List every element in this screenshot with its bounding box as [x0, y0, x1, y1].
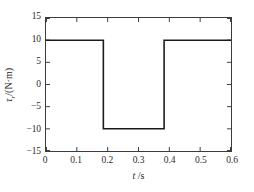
x-tick-label: 0.4	[164, 156, 176, 166]
x-tick-label: 0.6	[226, 156, 238, 166]
x-tick-label: 0.5	[195, 156, 207, 166]
x-tick-label: 0.2	[102, 156, 114, 166]
x-axis-tick-labels: 00.10.20.30.40.50.6	[45, 156, 232, 170]
y-axis-title-unit: /(N·m)	[3, 67, 14, 95]
y-axis-title-symbol: τ	[3, 98, 14, 102]
plot-canvas	[46, 18, 231, 151]
chart-figure: −15−10−5051015 τr/(N·m) 00.10.20.30.40.5…	[0, 0, 254, 192]
x-axis-title: t /s	[45, 170, 232, 181]
series-line-reference-torque	[46, 40, 231, 129]
x-tick-label: 0.1	[70, 156, 82, 166]
plot-area	[45, 17, 232, 152]
x-tick-label: 0.3	[133, 156, 145, 166]
tick-marks	[46, 18, 231, 151]
y-axis-title: τr/(N·m)	[3, 67, 19, 101]
y-axis-title-container: τr/(N·m)	[4, 17, 18, 152]
x-tick-label: 0	[43, 156, 48, 166]
x-axis-title-unit: /s	[135, 170, 144, 181]
